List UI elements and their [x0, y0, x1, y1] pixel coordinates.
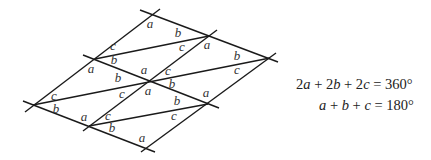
angle-label-b: b	[174, 93, 181, 108]
equation-text: +	[349, 97, 364, 113]
angle-label-b: b	[109, 120, 116, 135]
equation-sum-single: a + b + c = 180°	[319, 97, 414, 114]
right-edge	[141, 53, 276, 152]
angle-label-a: a	[88, 61, 95, 76]
angle-label-b: b	[53, 101, 60, 116]
equation-sum-double: 2a + 2b + 2c = 360°	[296, 76, 413, 93]
variable: b	[342, 97, 349, 113]
angle-label-c: c	[119, 86, 125, 101]
variable: a	[303, 76, 310, 92]
equation-text: +	[326, 97, 341, 113]
angle-label-b: b	[115, 70, 122, 85]
equation-text: = 180°	[371, 97, 414, 113]
angle-labels: abccabbaaccbbaccabbaccba	[51, 16, 241, 145]
center-diagonal-edge	[83, 30, 217, 131]
angle-label-a: a	[141, 62, 148, 77]
angle-label-b: b	[169, 76, 176, 91]
angle-label-b: b	[175, 25, 182, 40]
angle-label-a: a	[81, 109, 88, 124]
angle-label-c: c	[171, 108, 177, 123]
angle-label-c: c	[179, 39, 185, 54]
angle-label-c: c	[110, 38, 116, 53]
equation-text: = 360°	[370, 76, 413, 92]
angle-label-c: c	[234, 62, 240, 77]
angle-label-a: a	[145, 83, 152, 98]
equation-text: + 2	[340, 76, 363, 92]
angle-label-b: b	[234, 48, 241, 63]
angle-label-a: a	[147, 16, 154, 31]
angle-label-a: a	[204, 37, 211, 52]
angle-label-a: a	[203, 85, 210, 100]
angle-label-a: a	[139, 130, 146, 145]
angle-label-b: b	[111, 52, 118, 67]
equation-text: + 2	[311, 76, 334, 92]
